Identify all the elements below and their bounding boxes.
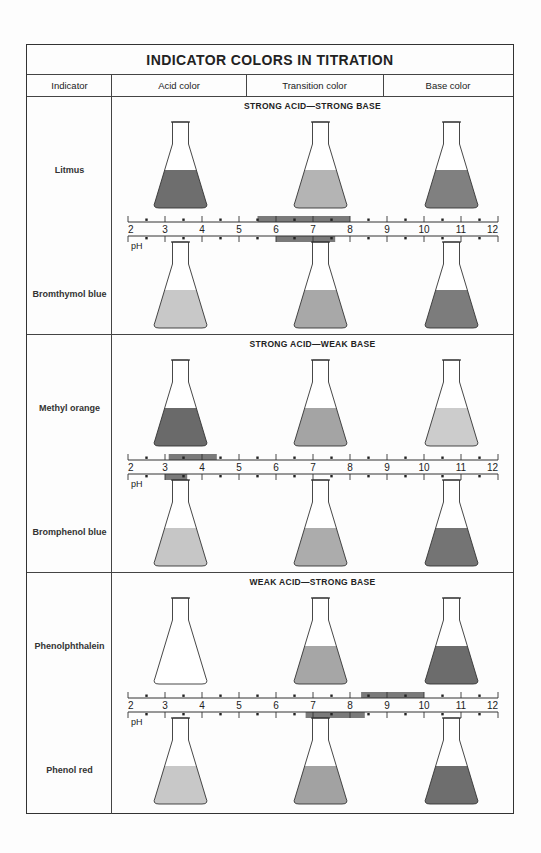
flask-transition-color: [294, 718, 347, 804]
liquid: [294, 766, 347, 804]
header-divider: [383, 74, 384, 97]
ph-tick-label: 5: [236, 462, 242, 473]
flask-acid-color: [154, 360, 207, 446]
flask-acid-color: [154, 122, 207, 208]
flask-base-color: [425, 242, 478, 328]
ph-tick-label: 11: [456, 224, 467, 235]
indicator-table: INDICATOR COLORS IN TITRATION Indicator …: [26, 44, 514, 814]
flask-transition-color: [294, 242, 347, 328]
header-indicator: Indicator: [27, 74, 112, 97]
ph-tick-label: 3: [162, 224, 168, 235]
section-diagram: 23456789101112pH: [27, 573, 513, 813]
liquid: [294, 290, 347, 328]
titration-section: STRONG ACID—WEAK BASE23456789101112pHMet…: [27, 335, 513, 573]
ph-tick-label: 11: [456, 462, 467, 473]
liquid: [294, 170, 347, 208]
titration-section: WEAK ACID—STRONG BASE23456789101112pHPhe…: [27, 573, 513, 813]
ph-tick-label: 2: [128, 224, 134, 235]
indicator-name: Litmus: [27, 165, 112, 175]
flask-acid-color: [154, 718, 207, 804]
flask-transition-color: [294, 360, 347, 446]
ph-tick-label: 12: [487, 224, 499, 235]
flask-transition-color: [294, 480, 347, 566]
ph-tick-label: 7: [310, 462, 316, 473]
ph-tick-label: 9: [384, 700, 390, 711]
transition-range-bar: [258, 216, 351, 222]
titration-section: STRONG ACID—STRONG BASE23456789101112pHL…: [27, 97, 513, 335]
liquid: [154, 766, 207, 804]
liquid: [425, 290, 478, 328]
flask-acid-color: [154, 242, 207, 328]
header-acid-color: Acid color: [112, 74, 246, 97]
ph-tick-label: 10: [418, 462, 430, 473]
header-base-color: Base color: [383, 74, 513, 97]
indicator-name: Bromphenol blue: [27, 527, 112, 537]
table-title: INDICATOR COLORS IN TITRATION: [27, 45, 513, 75]
indicator-name: Bromthymol blue: [27, 289, 112, 299]
flask-acid-color: [154, 480, 207, 566]
ph-tick-label: 2: [128, 700, 134, 711]
flask-transition-color: [294, 598, 347, 684]
ph-tick-label: 4: [199, 224, 205, 235]
ph-axis-label: pH: [131, 479, 143, 489]
flask-acid-color: [154, 598, 207, 684]
ph-tick-label: 7: [310, 700, 316, 711]
transition-range-bar: [306, 712, 365, 718]
ph-tick-label: 2: [128, 462, 134, 473]
indicator-name: Phenol red: [27, 765, 112, 775]
liquid: [154, 528, 207, 566]
header-divider: [246, 74, 247, 97]
ph-tick-label: 6: [273, 462, 279, 473]
liquid: [154, 408, 207, 446]
ph-tick-label: 5: [236, 700, 242, 711]
ph-tick-label: 12: [487, 700, 499, 711]
ph-tick-label: 9: [384, 462, 390, 473]
liquid: [294, 646, 347, 684]
ph-axis-label: pH: [131, 241, 143, 251]
ph-tick-label: 12: [487, 462, 499, 473]
ph-tick-label: 4: [199, 462, 205, 473]
flask-base-color: [425, 480, 478, 566]
ph-tick-label: 6: [273, 700, 279, 711]
liquid: [425, 528, 478, 566]
liquid: [154, 170, 207, 208]
transition-range-bar: [276, 236, 335, 242]
indicator-name: Methyl orange: [27, 403, 112, 413]
ph-tick-label: 8: [347, 462, 353, 473]
liquid: [154, 646, 207, 684]
ph-tick-label: 3: [162, 462, 168, 473]
ph-tick-label: 10: [418, 700, 430, 711]
ph-axis-label: pH: [131, 717, 143, 727]
liquid: [425, 646, 478, 684]
liquid: [425, 766, 478, 804]
section-diagram: 23456789101112pH: [27, 97, 513, 335]
ph-tick-label: 10: [418, 224, 430, 235]
flask-base-color: [425, 122, 478, 208]
liquid: [294, 528, 347, 566]
flask-base-color: [425, 718, 478, 804]
liquid: [154, 290, 207, 328]
ph-tick-label: 7: [310, 224, 316, 235]
liquid: [294, 408, 347, 446]
liquid: [425, 170, 478, 208]
header-transition-color: Transition color: [246, 74, 383, 97]
ph-tick-label: 11: [456, 700, 467, 711]
transition-range-bar: [361, 692, 424, 698]
ph-tick-label: 8: [347, 700, 353, 711]
section-diagram: 23456789101112pH: [27, 335, 513, 573]
ph-tick-label: 8: [347, 224, 353, 235]
ph-tick-label: 3: [162, 700, 168, 711]
ph-tick-label: 9: [384, 224, 390, 235]
ph-tick-label: 4: [199, 700, 205, 711]
transition-range-bar: [169, 454, 217, 460]
liquid: [425, 408, 478, 446]
ph-tick-label: 6: [273, 224, 279, 235]
indicator-name: Phenolphthalein: [27, 641, 112, 651]
ph-tick-label: 5: [236, 224, 242, 235]
flask-base-color: [425, 598, 478, 684]
flask-base-color: [425, 360, 478, 446]
flask-transition-color: [294, 122, 347, 208]
